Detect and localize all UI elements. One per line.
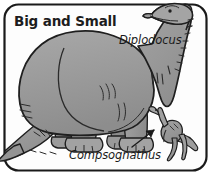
illustration-figure: Big and Small Diplodocus Compsognathus xyxy=(0,0,211,175)
framed-artwork xyxy=(0,3,207,171)
dinosaur-illustration-canvas xyxy=(0,0,211,175)
small-dinosaur-eye xyxy=(155,109,157,111)
large-dinosaur-body xyxy=(19,31,154,136)
